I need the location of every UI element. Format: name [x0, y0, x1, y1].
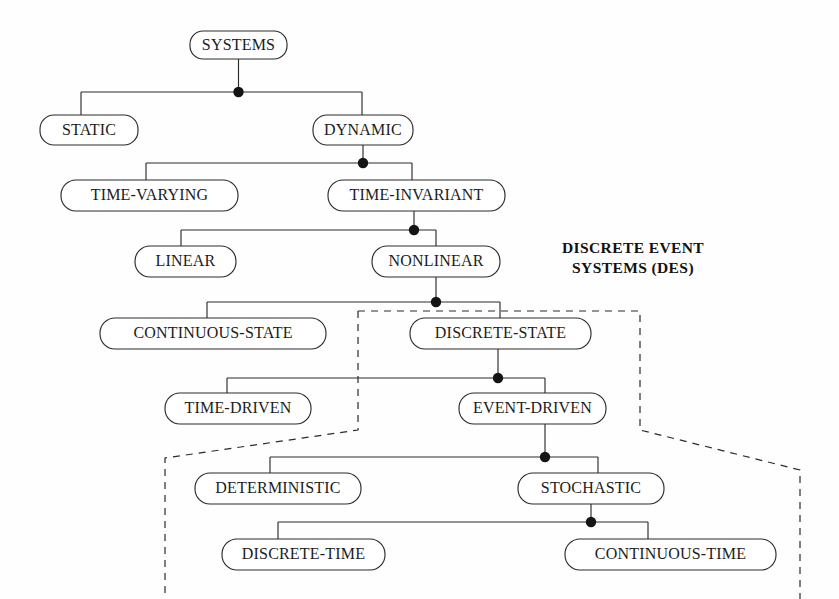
connector-nonlinear: [207, 277, 500, 318]
node-time-varying[interactable]: TIME-VARYING: [61, 180, 238, 211]
node-deterministic[interactable]: DETERMINISTIC: [195, 473, 361, 504]
node-discrete-state-label: DISCRETE-STATE: [435, 324, 566, 341]
node-time-invariant-label: TIME-INVARIANT: [349, 186, 483, 203]
node-event-driven-label: EVENT-DRIVEN: [473, 399, 592, 416]
connector-time-invariant: [181, 211, 436, 246]
junction-dot-dynamic: [358, 158, 368, 168]
des-caption-group: DISCRETE EVENT SYSTEMS (DES): [562, 239, 704, 277]
node-nonlinear[interactable]: NONLINEAR: [372, 246, 500, 277]
node-linear[interactable]: LINEAR: [135, 246, 236, 277]
connector-event-driven: [270, 424, 598, 473]
node-dynamic-label: DYNAMIC: [324, 121, 402, 138]
junction-dot-discrete-state: [493, 373, 503, 383]
connector-discrete-state: [227, 349, 545, 393]
taxonomy-canvas: SYSTEMS STATIC DYNAMIC TIME-VARYING TIME…: [0, 0, 839, 599]
des-caption-line1: DISCRETE EVENT: [562, 239, 704, 256]
node-static-label: STATIC: [62, 121, 116, 138]
node-discrete-state[interactable]: DISCRETE-STATE: [410, 318, 591, 349]
node-deterministic-label: DETERMINISTIC: [215, 479, 340, 496]
junction-dot-time-invariant: [409, 225, 419, 235]
node-static[interactable]: STATIC: [40, 115, 138, 145]
connector-systems: [81, 59, 362, 115]
junction-dot-nonlinear: [431, 297, 441, 307]
node-dynamic[interactable]: DYNAMIC: [313, 115, 413, 145]
junction-dot-stochastic: [586, 517, 596, 527]
node-stochastic[interactable]: STOCHASTIC: [518, 473, 664, 504]
node-nonlinear-label: NONLINEAR: [388, 252, 483, 269]
node-linear-label: LINEAR: [156, 252, 216, 269]
node-continuous-time-label: CONTINUOUS-TIME: [595, 545, 746, 562]
junction-dot-systems: [233, 87, 243, 97]
node-time-driven-label: TIME-DRIVEN: [184, 399, 291, 416]
node-time-driven[interactable]: TIME-DRIVEN: [165, 393, 311, 424]
node-systems-label: SYSTEMS: [202, 36, 275, 53]
node-systems[interactable]: SYSTEMS: [190, 31, 287, 59]
junction-dot-event-driven: [540, 452, 550, 462]
connector-stochastic: [278, 504, 648, 539]
node-continuous-state[interactable]: CONTINUOUS-STATE: [100, 318, 326, 349]
systems-taxonomy-diagram: SYSTEMS STATIC DYNAMIC TIME-VARYING TIME…: [0, 0, 839, 599]
node-continuous-state-label: CONTINUOUS-STATE: [133, 324, 292, 341]
node-continuous-time[interactable]: CONTINUOUS-TIME: [565, 539, 776, 570]
connector-dynamic: [146, 145, 412, 180]
node-discrete-time[interactable]: DISCRETE-TIME: [222, 539, 385, 570]
node-event-driven[interactable]: EVENT-DRIVEN: [459, 393, 606, 424]
node-discrete-time-label: DISCRETE-TIME: [242, 545, 365, 562]
node-time-varying-label: TIME-VARYING: [91, 186, 209, 203]
node-stochastic-label: STOCHASTIC: [541, 479, 641, 496]
des-caption-line2: SYSTEMS (DES): [572, 259, 694, 277]
node-time-invariant[interactable]: TIME-INVARIANT: [328, 180, 505, 211]
